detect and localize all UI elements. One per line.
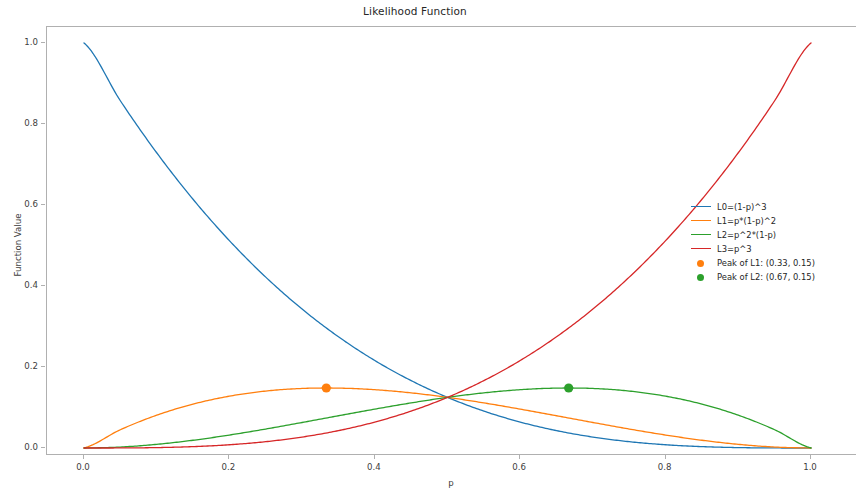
legend-line-swatch [690, 200, 712, 214]
y-tick-mark [41, 204, 45, 205]
x-axis-label: p [46, 478, 856, 488]
legend-item[interactable]: Peak of L1: (0.33, 0.15) [690, 256, 855, 270]
legend-item[interactable]: L0=(1-p)^3 [690, 200, 855, 214]
legend-marker-swatch [690, 256, 712, 270]
x-tick-mark [374, 455, 375, 459]
legend-item-label: L3=p^3 [712, 244, 752, 254]
y-tick-mark [41, 285, 45, 286]
y-tick-label: 0.2 [24, 361, 38, 371]
x-tick-mark [83, 455, 84, 459]
legend-item-label: L1=p*(1-p)^2 [712, 216, 776, 226]
x-tick-label: 0.8 [658, 462, 672, 472]
y-tick-label: 0.4 [24, 280, 38, 290]
x-tick-mark [665, 455, 666, 459]
legend-item-label: Peak of L2: (0.67, 0.15) [712, 272, 815, 282]
y-axis-label: Function Value [13, 205, 23, 285]
x-tick-label: 0.4 [367, 462, 381, 472]
peak-markers-group [322, 383, 574, 392]
y-tick-mark [41, 42, 45, 43]
legend-item[interactable]: Peak of L2: (0.67, 0.15) [690, 270, 855, 284]
y-tick-label: 0.6 [24, 199, 38, 209]
y-tick-label: 1.0 [24, 37, 38, 47]
legend-item[interactable]: L1=p*(1-p)^2 [690, 214, 855, 228]
legend-item[interactable]: L2=p^2*(1-p) [690, 228, 855, 242]
legend-item-label: L2=p^2*(1-p) [712, 230, 776, 240]
peak-marker-l2 [564, 383, 573, 392]
x-tick-label: 1.0 [803, 462, 817, 472]
x-tick-label: 0.2 [222, 462, 236, 472]
y-tick-mark [41, 123, 45, 124]
x-tick-mark [228, 455, 229, 459]
chart-legend: L0=(1-p)^3L1=p*(1-p)^2L2=p^2*(1-p)L3=p^3… [690, 200, 855, 284]
legend-item-label: L0=(1-p)^3 [712, 202, 767, 212]
x-tick-mark [519, 455, 520, 459]
x-tick-label: 0.6 [512, 462, 526, 472]
legend-line-swatch [690, 214, 712, 228]
legend-line-swatch [690, 228, 712, 242]
x-tick-label: 0.0 [76, 462, 90, 472]
legend-line-swatch [690, 242, 712, 256]
chart-title: Likelihood Function [0, 5, 830, 17]
y-tick-mark [41, 366, 45, 367]
y-tick-label: 0.8 [24, 118, 38, 128]
y-tick-mark [41, 447, 45, 448]
y-tick-label: 0.0 [24, 442, 38, 452]
x-tick-mark [810, 455, 811, 459]
peak-marker-l1 [322, 383, 331, 392]
legend-item-label: Peak of L1: (0.33, 0.15) [712, 258, 815, 268]
legend-item[interactable]: L3=p^3 [690, 242, 855, 256]
legend-marker-swatch [690, 270, 712, 284]
